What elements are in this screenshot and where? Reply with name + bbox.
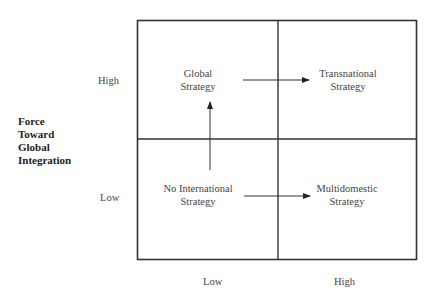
quadrant-text-line: Global <box>181 67 216 80</box>
quadrant-text-line: Transnational <box>319 67 376 80</box>
matrix-frame <box>137 20 417 260</box>
quadrant-transnational-strategy: Transnational Strategy <box>319 67 376 93</box>
quadrant-global-strategy: Global Strategy <box>181 67 216 93</box>
quadrant-text-line: No International <box>163 182 232 195</box>
quadrant-text-line: Strategy <box>163 195 232 208</box>
quadrant-multidomestic-strategy: Multidomestic Strategy <box>316 182 377 208</box>
x-axis-low-label: Low <box>203 276 222 287</box>
y-axis-title-line: Global <box>18 141 71 154</box>
y-axis-title: Force Toward Global Integration <box>18 115 71 167</box>
y-axis-title-line: Integration <box>18 154 71 167</box>
quadrant-text-line: Strategy <box>181 80 216 93</box>
quadrant-no-international-strategy: No International Strategy <box>163 182 232 208</box>
quadrant-text-line: Multidomestic <box>316 182 377 195</box>
y-axis-title-line: Toward <box>18 128 71 141</box>
y-axis-low-label: Low <box>100 192 119 203</box>
quadrant-text-line: Strategy <box>316 195 377 208</box>
y-axis-high-label: High <box>98 75 119 86</box>
quadrant-text-line: Strategy <box>319 80 376 93</box>
y-axis-title-line: Force <box>18 115 71 128</box>
x-axis-high-label: High <box>334 276 355 287</box>
